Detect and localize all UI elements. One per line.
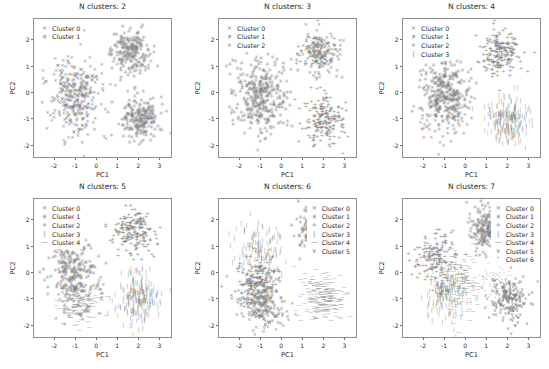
legend[interactable]: ×Cluster 0✳Cluster 1+Cluster 2: [222, 22, 268, 52]
legend-item-cluster-2[interactable]: +Cluster 2: [408, 41, 449, 50]
data-point: |: [151, 299, 153, 304]
legend-item-cluster-2[interactable]: +Cluster 2: [309, 221, 350, 230]
legend-label: Cluster 1: [504, 213, 534, 220]
legend[interactable]: ×Cluster 0✳Cluster 1+Cluster 2|Cluster 3: [406, 22, 452, 60]
data-point: |: [522, 127, 524, 132]
legend-item-cluster-1[interactable]: ✳Cluster 1: [224, 33, 265, 42]
data-point: ✳: [486, 201, 491, 206]
data-point: —: [54, 303, 59, 308]
legend[interactable]: ×Cluster 0✳Cluster 1+Cluster 2|Cluster 3…: [491, 202, 537, 266]
legend[interactable]: ×Cluster 0✳Cluster 1+Cluster 2|Cluster 3…: [307, 202, 353, 258]
legend-item-cluster-3[interactable]: |Cluster 3: [39, 230, 80, 239]
x-tick-label: 1: [300, 342, 304, 349]
legend-marker-icon: +: [309, 222, 320, 229]
legend-item-cluster-1[interactable]: ✳Cluster 1: [309, 213, 350, 222]
data-point: ✳: [484, 256, 489, 261]
legend-item-cluster-1[interactable]: ✳Cluster 1: [408, 33, 449, 42]
legend-item-cluster-5[interactable]: ∨Cluster 5: [309, 247, 350, 256]
y-tick-mark: [216, 39, 218, 40]
data-point: |: [246, 223, 248, 228]
subplot-2: N clusters: 3×××××××××××××××××××××××××××…: [192, 2, 371, 188]
data-point: +: [500, 40, 505, 45]
data-point: +: [312, 43, 317, 48]
legend-item-cluster-3[interactable]: |Cluster 3: [408, 50, 449, 59]
y-tick-mark: [216, 92, 218, 93]
data-point: —: [443, 291, 448, 296]
data-point: +: [522, 50, 527, 55]
legend-item-cluster-5[interactable]: ∨Cluster 5: [493, 247, 534, 256]
data-point: |: [514, 122, 516, 127]
data-point: ✳: [426, 115, 431, 120]
data-point: ×: [229, 294, 234, 299]
legend-item-cluster-4[interactable]: —Cluster 4: [39, 238, 80, 247]
legend-item-cluster-0[interactable]: ×Cluster 0: [493, 204, 534, 213]
legend-item-cluster-6[interactable]: ˄Cluster 6: [493, 256, 534, 265]
legend-item-cluster-2[interactable]: +Cluster 2: [39, 221, 80, 230]
data-point: ✳: [281, 61, 286, 66]
legend-item-cluster-0[interactable]: ×Cluster 0: [39, 24, 80, 33]
data-point: ✳: [460, 120, 465, 125]
legend-item-cluster-0[interactable]: ×Cluster 0: [408, 24, 449, 33]
data-point: |: [275, 253, 277, 258]
data-point: +: [328, 31, 333, 36]
data-point: ×: [418, 121, 423, 126]
data-point: |: [280, 234, 282, 239]
data-point: ✳: [249, 75, 254, 80]
data-point: ×: [465, 123, 470, 128]
legend[interactable]: ×Cluster 0✳Cluster 1+Cluster 2|Cluster 3…: [37, 202, 83, 249]
data-point: —: [96, 294, 101, 299]
data-point: —: [315, 286, 320, 291]
legend-item-cluster-0[interactable]: ×Cluster 0: [224, 24, 265, 33]
legend-item-cluster-2[interactable]: +Cluster 2: [493, 221, 534, 230]
data-point: |: [280, 247, 282, 252]
legend-item-cluster-3[interactable]: |Cluster 3: [493, 230, 534, 239]
data-point: ✳: [248, 126, 253, 131]
data-point: +: [151, 255, 156, 260]
legend-label: Cluster 4: [50, 239, 80, 246]
data-point: ✳: [452, 92, 457, 97]
data-point: —: [338, 315, 343, 320]
data-point: ×: [57, 100, 62, 105]
legend-item-cluster-1[interactable]: ✳Cluster 1: [39, 33, 80, 42]
legend-item-cluster-3[interactable]: |Cluster 3: [309, 230, 350, 239]
data-point: ✳: [478, 211, 483, 216]
x-tick-label: -2: [236, 162, 242, 169]
data-point: |: [524, 117, 526, 122]
data-point: |: [528, 119, 530, 124]
legend-item-cluster-4[interactable]: —Cluster 4: [309, 238, 350, 247]
data-point: |: [502, 142, 504, 147]
legend-label: Cluster 0: [320, 205, 350, 212]
legend-label: Cluster 2: [50, 222, 80, 229]
legend-item-cluster-0[interactable]: ×Cluster 0: [309, 204, 350, 213]
data-point: +: [328, 96, 333, 101]
y-tick-label: 1: [26, 242, 30, 249]
legend[interactable]: ×Cluster 0✳Cluster 1: [37, 22, 83, 43]
data-point: ×: [82, 154, 87, 158]
data-point: +: [407, 259, 412, 264]
data-point: |: [265, 256, 267, 261]
data-point: ∨: [506, 326, 510, 331]
data-point: ×: [224, 275, 229, 280]
data-point: ✳: [235, 102, 240, 107]
data-point: ✳: [430, 104, 435, 109]
data-point: ✳: [126, 89, 131, 94]
data-point: |: [274, 247, 276, 252]
legend-marker-icon: ×: [309, 205, 320, 212]
data-point: |: [122, 324, 124, 329]
legend-item-cluster-2[interactable]: +Cluster 2: [224, 41, 265, 50]
x-tick-label: 2: [321, 162, 325, 169]
data-point: +: [326, 40, 331, 45]
legend-item-cluster-1[interactable]: ✳Cluster 1: [493, 213, 534, 222]
data-point: ×: [79, 106, 84, 111]
data-point: —: [91, 314, 96, 319]
data-point: ×: [101, 283, 106, 288]
data-point: —: [447, 306, 452, 311]
legend-marker-icon: ˄: [493, 257, 504, 264]
legend-item-cluster-1[interactable]: ✳Cluster 1: [39, 213, 80, 222]
legend-label: Cluster 5: [320, 248, 350, 255]
data-point: ✳: [110, 100, 115, 105]
legend-item-cluster-4[interactable]: —Cluster 4: [493, 238, 534, 247]
legend-item-cluster-0[interactable]: ×Cluster 0: [39, 204, 80, 213]
data-point: +: [435, 228, 440, 233]
x-tick-mark: [444, 338, 445, 340]
